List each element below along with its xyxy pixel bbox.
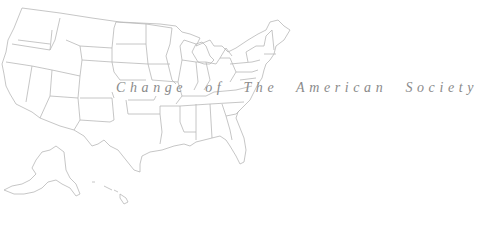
state-lines [80, 98, 114, 122]
hawaii-islands [92, 182, 128, 204]
state-lines [74, 98, 80, 130]
state-lines [126, 100, 160, 114]
michigan-outline [192, 42, 214, 64]
state-lines [116, 22, 146, 44]
state-lines [230, 60, 260, 64]
state-lines [222, 104, 232, 140]
state-lines [160, 114, 162, 144]
state-lines [264, 30, 272, 46]
alaska-outline [4, 146, 80, 196]
state-lines [272, 30, 274, 50]
state-lines [236, 70, 258, 72]
state-lines [128, 96, 156, 100]
state-lines [6, 62, 32, 102]
state-lines [50, 60, 82, 98]
state-lines [52, 70, 80, 76]
state-lines [246, 46, 264, 62]
state-lines [18, 40, 50, 44]
state-lines [210, 104, 212, 138]
state-lines [206, 58, 236, 82]
state-lines [180, 102, 244, 106]
state-lines [160, 106, 196, 132]
map-caption-title: Change of The American Society [116, 80, 478, 96]
state-lines [80, 46, 112, 62]
state-lines [116, 44, 148, 64]
state-lines [66, 22, 116, 48]
state-lines [32, 66, 52, 118]
state-lines [112, 92, 114, 98]
